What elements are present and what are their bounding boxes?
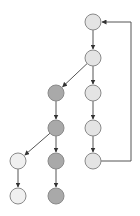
graph-node-n5 [48, 120, 64, 136]
graph-node-n3 [48, 85, 64, 101]
edge-arrow [101, 22, 131, 161]
graph-node-n9 [85, 153, 101, 169]
graph-node-n8 [48, 153, 64, 169]
directed-graph-diagram [0, 0, 140, 216]
graph-node-n7 [10, 153, 26, 169]
edge-arrow [63, 63, 88, 86]
graph-node-n6 [85, 120, 101, 136]
graph-node-n4 [85, 85, 101, 101]
graph-node-n2 [85, 50, 101, 66]
edge-arrow [25, 133, 50, 155]
graph-node-n1 [85, 14, 101, 30]
edges-layer [18, 22, 131, 187]
graph-node-n10 [10, 188, 26, 204]
graph-node-n11 [48, 188, 64, 204]
